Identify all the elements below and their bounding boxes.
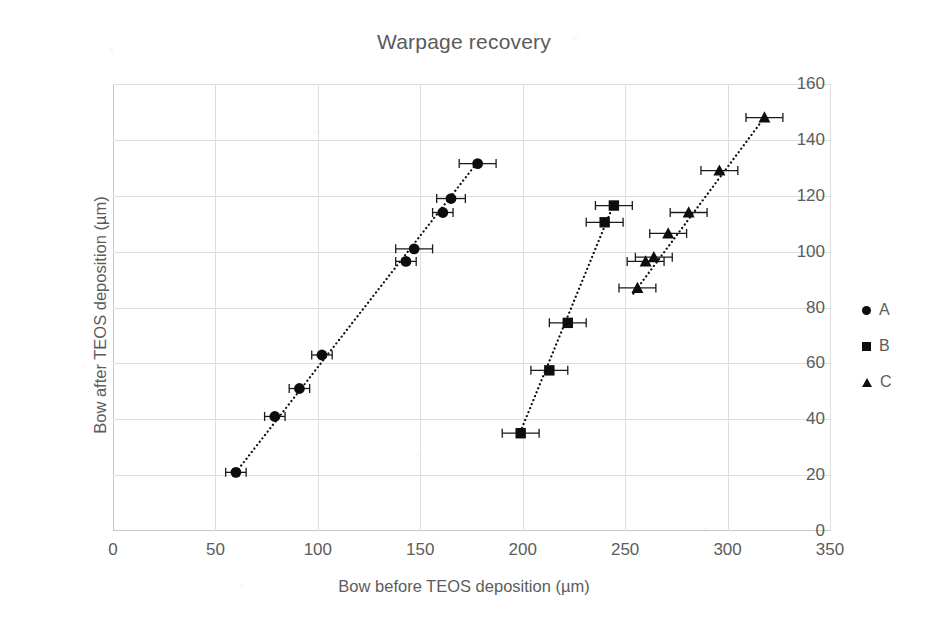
marker-circle xyxy=(472,158,483,169)
trendline-A xyxy=(236,159,480,472)
series-C xyxy=(619,111,783,293)
legend-label: C xyxy=(880,373,892,391)
warpage-recovery-chart: Warpage recovery 020406080100120140160 0… xyxy=(0,0,928,630)
legend-label: A xyxy=(879,301,890,319)
marker-square xyxy=(563,318,573,328)
legend-marker-triangle-icon xyxy=(862,378,872,387)
marker-square xyxy=(515,428,525,438)
marker-circle xyxy=(269,411,280,422)
marker-circle xyxy=(294,383,305,394)
marker-square xyxy=(599,217,609,227)
legend-marker-circle-icon xyxy=(862,306,871,315)
data-layer xyxy=(0,0,928,630)
trendline-C xyxy=(633,115,766,294)
legend-marker-square-icon xyxy=(862,342,871,351)
series-B xyxy=(502,200,632,438)
legend-label: B xyxy=(879,337,890,355)
legend-item-b[interactable]: B xyxy=(862,328,892,364)
legend-item-a[interactable]: A xyxy=(862,292,892,328)
marker-square xyxy=(544,365,554,375)
series-A xyxy=(226,158,496,478)
marker-circle xyxy=(317,350,328,361)
legend-item-c[interactable]: C xyxy=(862,364,892,400)
marker-square xyxy=(609,200,619,210)
legend: ABC xyxy=(862,292,892,400)
marker-circle xyxy=(231,467,242,478)
marker-circle xyxy=(437,207,448,218)
marker-circle xyxy=(401,256,412,267)
marker-circle xyxy=(446,193,457,204)
marker-circle xyxy=(409,243,420,254)
